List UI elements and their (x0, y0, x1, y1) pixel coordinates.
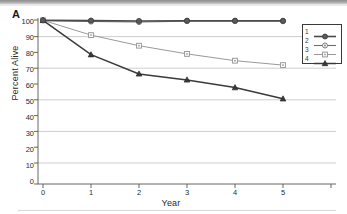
series-1-marker (88, 18, 93, 23)
legend-label-4: 4 (305, 54, 313, 63)
figure-panel-a: A Percent Alive Year 100 90 80 70 60 50 … (0, 0, 347, 214)
series-3-marker (137, 43, 142, 48)
series-4-line (40, 17, 286, 101)
series-1-marker (232, 18, 237, 23)
legend: 1 2 3 (302, 24, 342, 64)
legend-symbol-square-open-icon (313, 45, 341, 54)
series-3-marker (281, 63, 286, 68)
series-1-marker (184, 18, 189, 23)
series-3-marker (89, 33, 94, 38)
series-3-marker (185, 52, 190, 57)
plot-area (0, 0, 347, 214)
bottom-rule (18, 210, 336, 211)
legend-entry-1[interactable]: 1 (305, 27, 341, 36)
y-tick-marks (34, 20, 38, 184)
series-1-marker (136, 18, 141, 23)
series-1-line (40, 18, 285, 24)
legend-label-3: 3 (305, 45, 313, 54)
series-3-line (41, 18, 286, 68)
legend-entry-3[interactable]: 3 (305, 45, 341, 54)
legend-entry-2[interactable]: 2 (305, 36, 341, 45)
legend-symbol-circle-open-icon (313, 36, 341, 45)
legend-symbol-circle-filled-icon (313, 27, 341, 36)
legend-entry-4[interactable]: 4 (305, 54, 341, 63)
series-1-marker (280, 18, 285, 23)
series-3-marker (233, 58, 238, 63)
legend-label-2: 2 (305, 36, 313, 45)
series-1-marker (40, 18, 45, 23)
x-tick-marks (43, 184, 331, 188)
legend-symbol-triangle-filled-icon (313, 54, 341, 63)
axis-lines (38, 18, 336, 184)
legend-label-1: 1 (305, 27, 313, 36)
